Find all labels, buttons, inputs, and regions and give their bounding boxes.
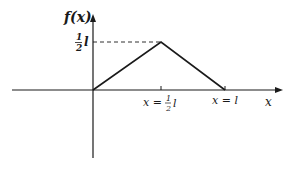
- function-curve: [93, 42, 225, 90]
- x-tick-mid-label: x = 1 2 l: [143, 94, 177, 113]
- svg-text:2: 2: [75, 43, 82, 53]
- peak-value-label: 1 2 l: [75, 32, 89, 53]
- y-axis-label: f(x): [63, 9, 92, 25]
- triangle-function-diagram: f(x) 1 2 l x = 1 2 l x = l x: [0, 0, 290, 171]
- x-axis-arrow-icon: [275, 87, 283, 93]
- svg-text:1: 1: [166, 94, 171, 103]
- svg-text:l: l: [84, 35, 89, 49]
- svg-text:2: 2: [165, 104, 171, 113]
- svg-text:1: 1: [76, 32, 82, 42]
- x-axis-label: x: [265, 95, 272, 109]
- x-tick-end-label: x = l: [212, 94, 238, 107]
- svg-text:l: l: [173, 97, 177, 110]
- svg-text:x =: x =: [143, 96, 162, 109]
